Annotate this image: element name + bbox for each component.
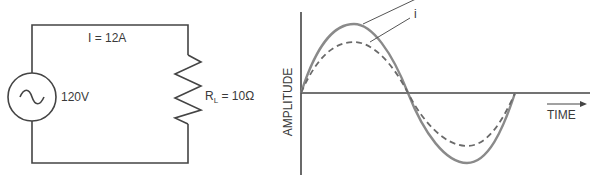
source-voltage-label: 120V [61, 90, 89, 104]
current-series-label: i [414, 7, 417, 21]
resistor-label: RL = 10Ω [205, 89, 254, 105]
time-arrow-icon [547, 101, 587, 107]
voltage-leader-line [363, 0, 418, 24]
time-axis-label: TIME [547, 108, 576, 122]
current-leader-line [370, 18, 410, 42]
resistor-icon [175, 55, 201, 124]
current-label: I = 12A [88, 31, 126, 45]
ac-source-icon [8, 73, 56, 121]
amplitude-axis-label: AMPLITUDE [281, 62, 295, 142]
resistor-label-prefix: R [205, 89, 214, 103]
resistor-label-suffix: = 10Ω [218, 89, 254, 103]
